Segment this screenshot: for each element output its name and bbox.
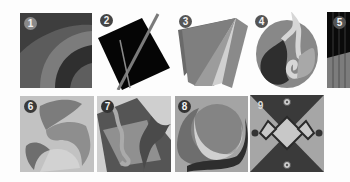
tile-number-badge: 9	[254, 99, 267, 112]
tile-number-badge: 5	[333, 16, 346, 29]
tile-number-badge: 6	[24, 100, 37, 113]
art-tile-2[interactable]: 2	[98, 10, 172, 90]
tile-number-badge: 7	[101, 100, 114, 113]
tile-number-badge: 4	[255, 15, 268, 28]
art-tile-6[interactable]: 6	[20, 96, 94, 172]
tile-number-badge: 8	[178, 100, 191, 113]
art-tile-8[interactable]: 8	[175, 96, 248, 172]
tile-number-badge: 2	[100, 14, 113, 27]
art-tile-4[interactable]: 4	[253, 12, 321, 88]
tile-number-badge: 3	[179, 15, 192, 28]
art-tile-7[interactable]: 7	[97, 96, 171, 172]
art-tile-5[interactable]: 5	[327, 12, 350, 88]
art-tile-1[interactable]: 1	[20, 13, 92, 88]
art-tile-9[interactable]: 9	[250, 95, 324, 172]
art-tile-3[interactable]: 3	[174, 12, 250, 88]
tile-number-badge: 1	[24, 17, 37, 30]
